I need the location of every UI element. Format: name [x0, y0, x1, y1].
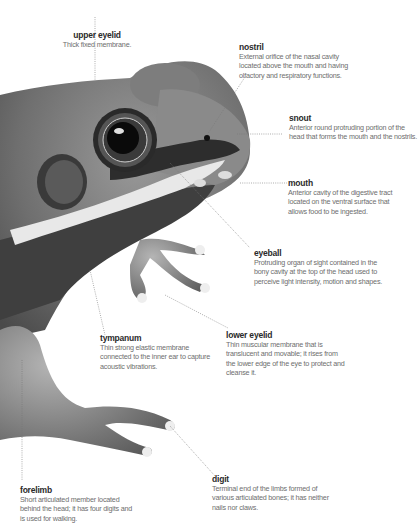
label-lower-eyelid: lower eyelid Thin muscular membrane that… [226, 330, 346, 377]
label-title: snout [289, 113, 419, 123]
label-description: Thick fixed membrane. [62, 40, 132, 49]
label-nostril: nostril External orifice of the nasal ca… [239, 42, 359, 80]
label-description: Thin strong elastic membrane connected t… [100, 343, 215, 371]
label-description: External orifice of the nasal cavity loc… [239, 52, 359, 80]
label-title: eyeball [254, 248, 384, 258]
label-forelimb: forelimb Short articulated member locate… [20, 485, 138, 523]
label-title: lower eyelid [226, 330, 346, 340]
label-description: Protruding organ of sight contained in t… [254, 258, 384, 286]
label-description: Thin muscular membrane that is transluce… [226, 340, 346, 377]
label-description: Terminal end of the limbs formed of vari… [212, 484, 330, 512]
label-description: Short articulated member located behind … [20, 495, 138, 523]
label-description: Anterior round protruding portion of the… [289, 123, 419, 142]
label-tympanum: tympanum Thin strong elastic membrane co… [100, 333, 215, 371]
label-title: upper eyelid [62, 30, 132, 40]
label-title: tympanum [100, 333, 215, 343]
label-mouth: mouth Anterior cavity of the digestive t… [288, 178, 408, 216]
label-title: forelimb [20, 485, 138, 495]
label-title: digit [212, 474, 330, 484]
label-title: mouth [288, 178, 408, 188]
label-digit: digit Terminal end of the limbs formed o… [212, 474, 330, 512]
label-description: Anterior cavity of the digestive tract l… [288, 188, 408, 216]
label-snout: snout Anterior round protruding portion … [289, 113, 419, 142]
label-eyeball: eyeball Protruding organ of sight contai… [254, 248, 384, 286]
label-title: nostril [239, 42, 359, 52]
label-upper-eyelid: upper eyelid Thick fixed membrane. [62, 30, 132, 49]
